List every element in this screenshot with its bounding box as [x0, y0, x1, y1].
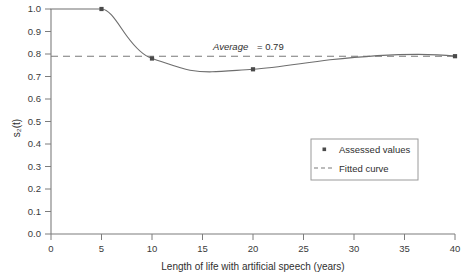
x-tick-label: 10: [147, 243, 158, 254]
y-axis-title-text: s₂(t): [11, 119, 22, 137]
data-point-marker: [150, 56, 154, 60]
legend[interactable]: Assessed values Fitted curve: [311, 139, 418, 180]
x-tick-label: 20: [248, 243, 259, 254]
y-tick-label: 1.0: [28, 3, 41, 14]
y-tick-label: 0.7: [28, 71, 41, 82]
x-tick-label: 5: [99, 243, 104, 254]
y-tick-label: 0.3: [28, 161, 41, 172]
average-annotation: Average = 0.79: [212, 41, 284, 52]
y-axis-title: s₂(t): [11, 119, 22, 137]
x-tick-label: 35: [399, 243, 410, 254]
y-tick-label: 0.5: [28, 116, 41, 127]
average-annotation-label: Average: [212, 41, 248, 52]
x-tick-label: 40: [450, 243, 461, 254]
y-tick-label: 0.1: [28, 206, 41, 217]
chart-figure: 0.0 0.1 0.2 0.3 0.4 0.5 0.6 0.7 0.8 0.9 …: [0, 0, 467, 277]
y-tick-label: 0.9: [28, 26, 41, 37]
x-tick-label: 0: [48, 243, 53, 254]
axes: [51, 9, 455, 234]
legend-label-fitted-curve: Fitted curve: [339, 163, 389, 174]
data-point-marker: [453, 54, 457, 58]
average-annotation-value: = 0.79: [257, 41, 284, 52]
x-tick-label: 25: [298, 243, 309, 254]
x-axis-ticks: 0 5 10 15 20 25 30 35 40: [48, 234, 460, 254]
chart-canvas: 0.0 0.1 0.2 0.3 0.4 0.5 0.6 0.7 0.8 0.9 …: [0, 0, 467, 277]
x-axis-title-text: Length of life with artificial speech (y…: [161, 261, 344, 272]
fitted-curve-path: [51, 9, 455, 72]
y-tick-label: 0.2: [28, 183, 41, 194]
assessed-values-markers: [99, 7, 457, 71]
legend-dot-icon: [323, 148, 327, 152]
legend-label-assessed-values: Assessed values: [339, 144, 411, 155]
y-tick-label: 0.4: [28, 138, 41, 149]
data-point-marker: [251, 67, 255, 71]
y-tick-label: 0.6: [28, 93, 41, 104]
y-tick-label: 0.8: [28, 48, 41, 59]
data-point-marker: [99, 7, 103, 11]
x-tick-label: 15: [197, 243, 208, 254]
y-tick-label: 0.0: [28, 228, 41, 239]
x-tick-label: 30: [349, 243, 360, 254]
y-axis-ticks: 0.0 0.1 0.2 0.3 0.4 0.5 0.6 0.7 0.8 0.9 …: [28, 3, 51, 239]
